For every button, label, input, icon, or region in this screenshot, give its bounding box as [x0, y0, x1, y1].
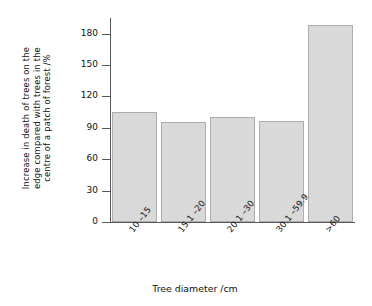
y-axis-tick: 150	[60, 65, 110, 66]
bar-chart-figure: Increase in death of trees on the edge c…	[0, 0, 372, 306]
y-axis-tick-mark	[102, 222, 110, 223]
bar	[308, 25, 353, 222]
bars-layer	[110, 18, 355, 222]
y-axis-tick: 0	[60, 222, 110, 223]
y-axis-tick-label: 120	[81, 90, 98, 101]
y-axis-title-line-2: edge compared with trees in the	[32, 47, 43, 189]
y-axis-tick-label: 180	[81, 28, 98, 39]
y-axis-tick-label: 90	[87, 122, 98, 133]
y-axis-tick-mark	[102, 65, 110, 66]
y-axis-tick: 90	[60, 128, 110, 129]
x-axis-tick-labels: 10 –1515.1 –2020.1 –3030.1 –59.9>60	[110, 224, 355, 278]
y-axis-tick-mark	[102, 191, 110, 192]
y-axis-title-line-1: Increase in death of trees on the	[21, 47, 32, 189]
y-axis-tick-mark	[102, 159, 110, 160]
y-axis-tick: 180	[60, 34, 110, 35]
y-axis-tick-label: 0	[92, 216, 98, 227]
y-axis-tick-label: 150	[81, 59, 98, 70]
y-axis-tick: 120	[60, 96, 110, 97]
bar	[112, 112, 157, 222]
y-axis-title: Increase in death of trees on the edge c…	[14, 18, 60, 218]
y-axis-tick-mark	[102, 34, 110, 35]
y-axis-tick-mark	[102, 128, 110, 129]
y-axis-title-line-3: centre of a patch of forest /%	[42, 54, 53, 182]
y-axis-tick-mark	[102, 96, 110, 97]
y-axis-tick-label: 60	[87, 153, 98, 164]
y-axis-tick: 30	[60, 191, 110, 192]
x-axis-title: Tree diameter /cm	[110, 283, 280, 294]
y-axis-tick: 60	[60, 159, 110, 160]
y-axis-tick-label: 30	[87, 185, 98, 196]
